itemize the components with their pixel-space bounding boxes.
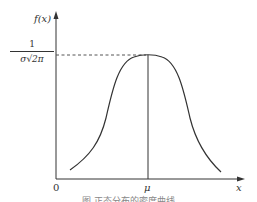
x-axis-arrow-icon (237, 177, 245, 182)
figure-caption: 图 正态分布的密度曲线 (0, 196, 257, 202)
density-curve-plot (0, 0, 257, 202)
x-axis-label: x (236, 183, 242, 193)
peak-numerator: 1 (10, 39, 54, 50)
fraction-bar (10, 51, 54, 52)
normal-distribution-figure: f(x) 1 σ√2π 0 μ x 图 正态分布的密度曲线 (0, 0, 257, 202)
peak-denominator: σ√2π (10, 54, 54, 65)
peak-value-label: 1 σ√2π (10, 39, 54, 65)
bell-curve (70, 55, 221, 172)
origin-label: 0 (53, 183, 59, 193)
mu-label: μ (144, 183, 151, 193)
y-axis-label: f(x) (34, 14, 51, 24)
y-axis-arrow-icon (54, 11, 59, 19)
